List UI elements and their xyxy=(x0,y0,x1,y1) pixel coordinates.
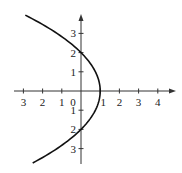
parabola-graph: 32101234321123 xyxy=(0,0,182,173)
x-tick-label: 3 xyxy=(21,96,27,108)
y-tick-label: 2 xyxy=(71,123,77,135)
x-tick-label: 1 xyxy=(59,96,65,108)
x-axis-arrow-icon xyxy=(169,89,176,94)
x-tick-label: 4 xyxy=(155,96,161,108)
y-axis-arrow-icon xyxy=(79,14,84,21)
y-tick-label: 3 xyxy=(71,143,77,155)
x-tick-label: 3 xyxy=(136,96,142,108)
parabola-curve xyxy=(25,15,100,163)
x-tick-label: 2 xyxy=(40,96,46,108)
y-tick-label: 1 xyxy=(71,104,77,116)
y-tick-label: 2 xyxy=(71,47,77,59)
x-tick-label: 1 xyxy=(100,96,106,108)
plot-area: 32101234321123 xyxy=(0,0,182,173)
y-tick-label: 3 xyxy=(71,27,77,39)
y-tick-label: 1 xyxy=(71,66,77,78)
x-tick-label: 2 xyxy=(117,96,123,108)
